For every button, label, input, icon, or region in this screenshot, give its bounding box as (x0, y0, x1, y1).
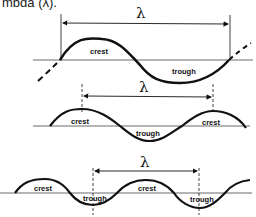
trough-label-1: trough (83, 194, 107, 203)
trough-label: trough (172, 67, 196, 76)
lambda-symbol: λ (136, 4, 146, 22)
crest-label-left: crest (71, 117, 89, 126)
trough-label: trough (136, 129, 160, 138)
crest-label-2: crest (138, 184, 156, 193)
lambda-symbol: λ (139, 78, 149, 96)
wave-3-group: λ crest trough crest trough (0, 153, 252, 215)
wave-1-group: λ crest trough (33, 4, 253, 83)
crest-label: crest (90, 47, 108, 56)
dashed-wave-left (38, 60, 60, 81)
lambda-arrow (63, 23, 228, 24)
dashed-wave-right (229, 43, 251, 60)
wave-1-curve (60, 38, 229, 83)
wave-2-group: λ crest trough crest (33, 78, 250, 141)
lambda-symbol: λ (140, 153, 150, 171)
lambda-arrow (84, 96, 211, 97)
crest-label-right: crest (202, 118, 220, 127)
wavelength-diagram: λ crest trough λ crest trough crest λ cr… (0, 0, 256, 217)
crest-label-1: crest (34, 184, 52, 193)
trough-label-2: trough (190, 195, 214, 204)
